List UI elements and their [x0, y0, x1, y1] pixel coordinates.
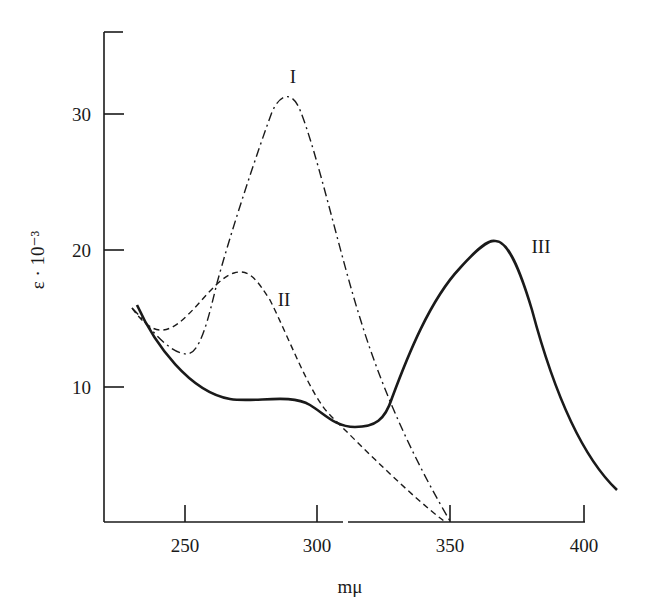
x-tick-label-250: 250	[171, 535, 200, 556]
y-tick-label-10: 10	[72, 377, 91, 398]
x-tick-label-400: 400	[570, 535, 599, 556]
curve-iii	[137, 241, 617, 490]
curve-label-i: I	[290, 66, 296, 87]
curve-label-ii: II	[278, 289, 291, 310]
x-tick-labels: 250 300 350 400	[171, 535, 599, 556]
y-tick-labels: 30 20 10	[72, 104, 91, 398]
curve-i	[132, 97, 450, 521]
axes	[104, 32, 585, 522]
y-tick-label-30: 30	[72, 104, 91, 125]
y-axis-title: ε · 10⁻³	[27, 230, 48, 289]
x-tick-label-300: 300	[303, 535, 332, 556]
curve-label-iii: III	[532, 236, 551, 257]
x-tick-label-350: 350	[436, 535, 465, 556]
x-axis-title: mμ	[338, 576, 363, 597]
y-tick-label-20: 20	[72, 240, 91, 261]
absorption-spectrum-chart: 30 20 10 250 300 350 400 mμ ε · 10⁻³ I I…	[0, 0, 659, 613]
